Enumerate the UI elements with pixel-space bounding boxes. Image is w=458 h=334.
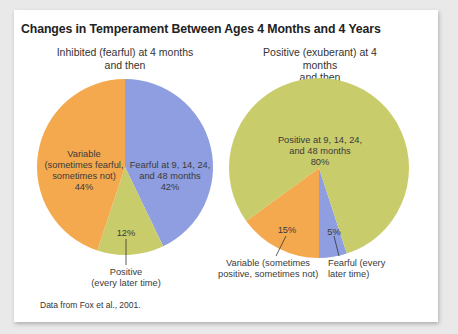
left-positive-pct: 12%: [106, 228, 146, 239]
left-positive-label: Positive (every later time): [86, 267, 166, 289]
right-pie: [229, 78, 409, 258]
label-line: sometimes not): [42, 171, 126, 182]
right-variable-pct: 15%: [272, 225, 302, 236]
label-pct: 44%: [42, 182, 126, 193]
label-line: (sometimes fearful,: [42, 160, 126, 171]
source-note: Data from Fox et al., 2001.: [40, 300, 141, 310]
label-line: Variable: [42, 149, 126, 160]
label-line: Fearful (every: [328, 258, 398, 269]
label-pct: 42%: [128, 182, 212, 193]
right-variable-label: Variable (sometimes positive, sometimes …: [218, 258, 318, 280]
label-line: positive, sometimes not): [218, 269, 318, 280]
label-line: Positive at 9, 14, 24,: [275, 135, 365, 146]
label-pct: 80%: [275, 157, 365, 168]
right-positive-label: Positive at 9, 14, 24, and 48 months 80%: [275, 135, 365, 168]
label-line: and 48 months: [275, 146, 365, 157]
right-fearful-label: Fearful (every later time): [328, 258, 398, 280]
left-variable-label: Variable (sometimes fearful, sometimes n…: [42, 149, 126, 193]
label-line: (every later time): [86, 278, 166, 289]
label-line: later time): [328, 269, 398, 280]
left-fearful-label: Fearful at 9, 14, 24, and 48 months 42%: [128, 160, 212, 193]
right-fearful-pct: 5%: [322, 227, 346, 238]
label-line: Positive: [86, 267, 166, 278]
label-line: Variable (sometimes: [218, 258, 318, 269]
label-line: and 48 months: [128, 171, 212, 182]
label-line: Fearful at 9, 14, 24,: [128, 160, 212, 171]
